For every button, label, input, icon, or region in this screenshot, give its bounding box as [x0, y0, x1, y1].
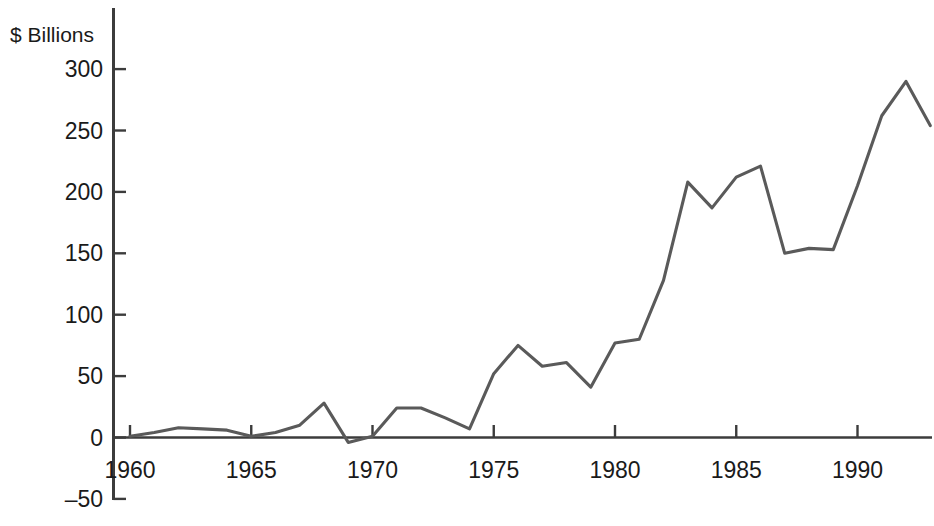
x-axis: 1960196519701975198019851990 — [104, 425, 932, 483]
x-tick-label: 1990 — [832, 457, 883, 483]
y-tick-label: 150 — [65, 240, 103, 266]
y-tick-label: –50 — [65, 486, 103, 512]
data-line — [130, 81, 930, 442]
y-axis-title-group: $ Billions — [10, 23, 94, 46]
y-tick-label: 50 — [77, 363, 103, 389]
x-tick-label: 1975 — [468, 457, 519, 483]
line-chart-svg: $ Billions –50050100150200250300 1960196… — [0, 0, 934, 526]
x-tick-label: 1985 — [711, 457, 762, 483]
y-tick-group: –50050100150200250300 — [65, 56, 126, 512]
x-tick-label: 1960 — [104, 457, 155, 483]
y-axis-label: $ Billions — [10, 23, 94, 46]
chart-figure: $ Billions –50050100150200250300 1960196… — [0, 0, 934, 526]
y-tick-label: 250 — [65, 118, 103, 144]
x-tick-group: 1960196519701975198019851990 — [104, 425, 883, 483]
y-tick-label: 200 — [65, 179, 103, 205]
y-tick-label: 300 — [65, 56, 103, 82]
x-tick-label: 1965 — [226, 457, 277, 483]
y-tick-label: 100 — [65, 302, 103, 328]
data-series-group — [130, 81, 930, 442]
x-tick-label: 1970 — [347, 457, 398, 483]
x-tick-label: 1980 — [589, 457, 640, 483]
y-tick-label: 0 — [90, 425, 103, 451]
